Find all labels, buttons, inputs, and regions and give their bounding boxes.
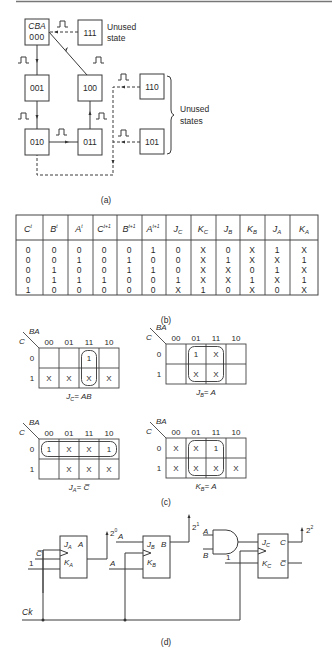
ff-a-output-weight: 20 <box>110 527 117 538</box>
table-cell: 1 <box>77 275 82 285</box>
header-cell: Bt+1 <box>122 223 135 234</box>
table-cell: 1 <box>151 265 156 275</box>
state-diagram: CBA 000 111 001 100 110 010 011 101 <box>18 19 210 205</box>
table-cell: 0 <box>26 275 31 285</box>
kmap-col-label: 01 <box>65 338 74 347</box>
ff-a-q-label: A <box>77 540 83 549</box>
table-cell: 1 <box>176 275 181 285</box>
and-input-b: B <box>203 551 209 560</box>
arrow-icon <box>65 141 69 144</box>
kmap-col-label: 11 <box>85 338 94 347</box>
table-cell: X <box>249 285 255 295</box>
kmap-k-b: BAC0001111001XX1XXXXKB= A <box>146 417 246 492</box>
junction-dot <box>42 619 45 622</box>
kmap-col-label: 10 <box>105 429 114 438</box>
kmap-col-label: 00 <box>45 338 54 347</box>
header-cell: KB <box>247 224 257 235</box>
kmap-cell: X <box>173 444 179 453</box>
table-cell: 0 <box>127 275 132 285</box>
table-cell: X <box>200 255 206 265</box>
kmap-col-label: 01 <box>192 334 201 343</box>
table-cell: X <box>200 275 206 285</box>
header-cell: KA <box>299 224 309 235</box>
table-cell: X <box>301 285 307 295</box>
brace-icon <box>167 76 174 154</box>
kmap-cell: X <box>193 464 199 473</box>
table-cell: 0 <box>102 255 107 265</box>
caption-d: (d) <box>161 637 172 647</box>
output-arrow-icon <box>188 514 191 518</box>
table-cell: 0 <box>102 265 107 275</box>
state-label-110: 110 <box>145 82 159 92</box>
header-cell: JC <box>173 224 184 235</box>
kmap-j-a: BAC00011110011XX1XXXJA= C̅ <box>19 418 119 493</box>
kmap-cell: 1 <box>214 444 219 453</box>
kmap-row-label: 1 <box>30 465 35 474</box>
table-cell: 0 <box>151 255 156 265</box>
table-cell: 0 <box>52 285 57 295</box>
diagram-canvas: CBA 000 111 001 100 110 010 011 101 <box>0 0 332 663</box>
kmap-row-label: 1 <box>157 370 162 379</box>
ff-c-q-label: C <box>280 538 286 547</box>
state-label-101: 101 <box>145 137 159 147</box>
table-cell: 0 <box>226 285 231 295</box>
table-cell: X <box>274 255 280 265</box>
clock-label: Ck <box>22 607 33 617</box>
table-cell: 1 <box>275 245 280 255</box>
kmap-col-label: 00 <box>172 334 181 343</box>
ff-a-k-input: 1 <box>29 559 34 568</box>
table-cell: 0 <box>250 265 255 275</box>
wire <box>87 535 107 559</box>
table-cell: 1 <box>52 265 57 275</box>
kmap-j-b: BAC00011110011XXXJB= A <box>146 323 246 398</box>
header-cell: KC <box>198 224 209 235</box>
kmap-col-label: 11 <box>212 428 221 437</box>
state-label-100: 100 <box>83 83 97 93</box>
header-cell: Ct <box>24 223 33 234</box>
table-cell: X <box>200 265 206 275</box>
unused-states-label-line2: states <box>180 116 203 126</box>
table-cell: 0 <box>77 285 82 295</box>
excitation-table: Ct Bt At Ct+1 Bt+1 At+1 JC KC JB KB JA K… <box>16 215 318 325</box>
kmap-row-var: C <box>146 333 152 342</box>
state-label-000: 000 <box>29 32 45 42</box>
table-cell: X <box>200 245 206 255</box>
ff-c-qbar-label: C̅ <box>280 559 287 568</box>
kmap-row-label: 0 <box>30 354 35 363</box>
unused-state-label-line2: state <box>107 33 126 43</box>
kmap-row-var: C <box>19 337 25 346</box>
and-input-a: A <box>202 527 208 536</box>
kmap-j-c: BAC00011110011XXXXJC= AB <box>19 327 119 402</box>
kmap-row-var: C <box>19 428 25 437</box>
table-cell: 0 <box>176 245 181 255</box>
table-cell: X <box>175 285 181 295</box>
wire <box>170 518 189 542</box>
table-cell: 1 <box>127 265 132 275</box>
arrow-icon <box>36 115 39 119</box>
ff-b-output-weight: 21 <box>192 521 199 532</box>
table-cell: 0 <box>52 245 57 255</box>
unused-state-label-line1: Unused <box>107 22 137 32</box>
table-cell: 1 <box>26 285 31 295</box>
table-cell: 0 <box>127 285 132 295</box>
table-cell: 0 <box>26 245 31 255</box>
ff-a-j-input: C̅ <box>36 549 43 558</box>
kmap-col-var: BA <box>29 327 40 336</box>
kmap-row-label: 1 <box>30 374 35 383</box>
kmap-result-expression: JA= C̅ <box>68 483 90 493</box>
table-cell: X <box>225 275 231 285</box>
karnaugh-maps: BAC00011110011XXXXJC= ABBAC00011110011XX… <box>19 323 246 493</box>
header-cell: Ct+1 <box>97 223 111 234</box>
state-label-111: 111 <box>84 28 97 38</box>
kmap-cell: X <box>66 374 72 383</box>
kmap-col-label: 10 <box>232 334 241 343</box>
circuit-diagram: KA JA A C̅ 1 20 JB KB B A A 21 A B JC KC <box>22 514 313 647</box>
kmap-cell: X <box>173 464 179 473</box>
table-cell: 0 <box>226 245 231 255</box>
kmap-col-label: 11 <box>212 334 221 343</box>
table-cell: 0 <box>26 265 31 275</box>
table-cell: 0 <box>176 255 181 265</box>
kmap-result-expression: JB= A <box>195 388 216 398</box>
table-cell: X <box>301 265 307 275</box>
kmap-cell: 1 <box>47 445 52 454</box>
